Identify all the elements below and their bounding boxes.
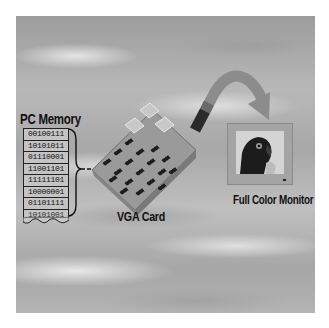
memory-row: 01110001: [24, 152, 68, 164]
vga-card-icon: [92, 103, 196, 216]
curved-arrow-icon: [195, 76, 270, 130]
memory-stack: 00100111 10101011 01110001 11001101 1111…: [23, 128, 69, 219]
pc-memory-label: PC Memory: [20, 111, 81, 127]
monitor-icon: [227, 123, 293, 185]
memory-row: 10000001: [24, 187, 68, 199]
monitor-label: Full Color Monitor: [233, 193, 313, 207]
memory-row: 11111101: [24, 175, 68, 187]
memory-row: 01101111: [24, 198, 68, 210]
memory-row: 11001101: [24, 164, 68, 176]
monitor-screen: [236, 131, 284, 174]
memory-row: 10101011: [24, 141, 68, 153]
memory-row: 00100111: [24, 129, 68, 141]
vga-card-label: VGA Card: [117, 209, 165, 224]
torn-edge-icon: [23, 217, 69, 225]
power-led-icon: [283, 179, 286, 181]
parrot-image-icon: [236, 131, 284, 174]
